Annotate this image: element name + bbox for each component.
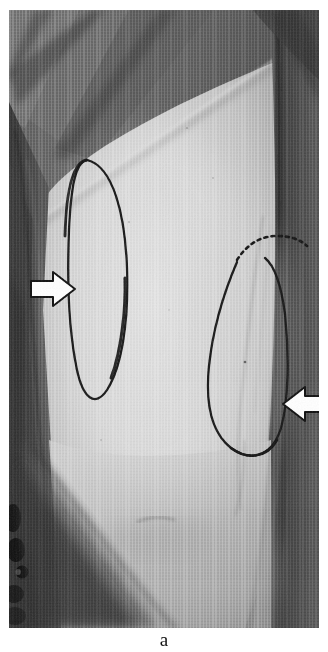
clinical-photograph	[9, 10, 319, 628]
photograph-canvas	[9, 10, 319, 628]
film-grain	[9, 10, 319, 628]
panel-label: a	[0, 630, 328, 652]
figure-page: a	[0, 0, 328, 652]
